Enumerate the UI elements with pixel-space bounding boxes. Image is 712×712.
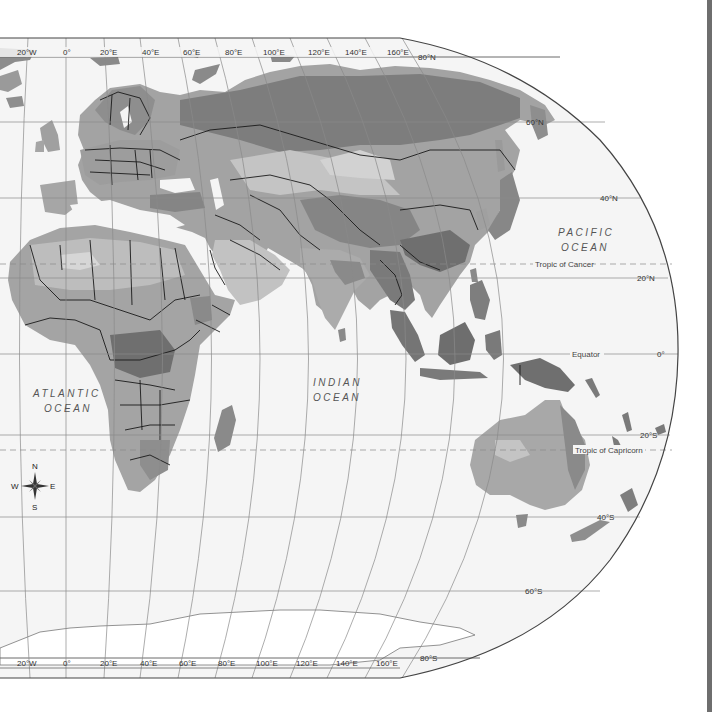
bottom-lon-20e: 20°E xyxy=(100,659,117,668)
indian-ocean-label-1: INDIAN xyxy=(313,377,362,388)
top-lon-40e: 40°E xyxy=(142,48,159,57)
compass-n: N xyxy=(32,462,38,471)
top-lon-140e: 140°E xyxy=(345,48,367,57)
equator-label: Equator xyxy=(572,350,600,359)
lat-80n: 80°N xyxy=(418,53,436,62)
top-lon-120e: 120°E xyxy=(308,48,330,57)
bottom-lon-20w: 20°W xyxy=(17,659,37,668)
indian-ocean-label-2: OCEAN xyxy=(313,392,361,403)
top-lon-80e: 80°E xyxy=(225,48,242,57)
lat-20s: 20°S xyxy=(640,431,657,440)
compass-e: E xyxy=(50,482,55,491)
tropic-of-cancer-label: Tropic of Cancer xyxy=(535,260,594,269)
compass-s: S xyxy=(32,503,37,512)
lat-60s: 60°S xyxy=(525,587,542,596)
lat-60n: 60°N xyxy=(526,118,544,127)
lat-40s: 40°S xyxy=(597,513,614,522)
atlantic-ocean-label-1: ATLANTIC xyxy=(32,388,101,399)
top-lon-20e: 20°E xyxy=(100,48,117,57)
tropic-of-capricorn-label: Tropic of Capricorn xyxy=(575,446,643,455)
top-lon-160e: 160°E xyxy=(387,48,409,57)
world-map: 20°W 0° 20°E 40°E 60°E 80°E 100°E 120°E … xyxy=(0,0,712,712)
pacific-ocean-label-2: OCEAN xyxy=(561,242,609,253)
right-edge-bar xyxy=(707,0,712,712)
lat-0: 0° xyxy=(657,350,665,359)
bottom-lon-160e: 160°E xyxy=(376,659,398,668)
top-lon-20w: 20°W xyxy=(17,48,37,57)
bottom-lon-140e: 140°E xyxy=(336,659,358,668)
lat-80s: 80°S xyxy=(420,654,437,663)
bottom-lon-0: 0° xyxy=(63,659,71,668)
lat-40n: 40°N xyxy=(600,194,618,203)
bottom-lon-80e: 80°E xyxy=(218,659,235,668)
lat-20n: 20°N xyxy=(637,274,655,283)
bottom-lon-60e: 60°E xyxy=(179,659,196,668)
top-lon-100e: 100°E xyxy=(263,48,285,57)
bottom-lon-120e: 120°E xyxy=(296,659,318,668)
compass-w: W xyxy=(11,482,19,491)
top-longitude-labels: 20°W 0° 20°E 40°E 60°E 80°E 100°E 120°E … xyxy=(0,47,409,57)
top-lon-0: 0° xyxy=(63,48,71,57)
bottom-lon-100e: 100°E xyxy=(256,659,278,668)
top-lon-60e: 60°E xyxy=(183,48,200,57)
pacific-ocean-label-1: PACIFIC xyxy=(558,227,614,238)
atlantic-ocean-label-2: OCEAN xyxy=(44,403,92,414)
bottom-lon-40e: 40°E xyxy=(140,659,157,668)
